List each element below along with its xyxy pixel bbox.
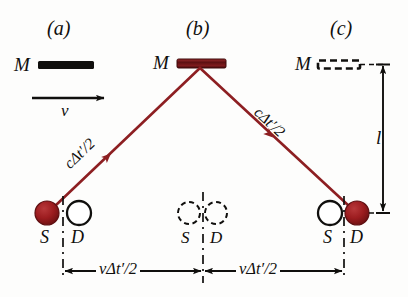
mirror-b-bar — [177, 59, 226, 68]
detector-label-right: D — [350, 228, 363, 246]
panel-tag-c: (c) — [330, 18, 352, 38]
mirror-label-b: M — [153, 53, 169, 72]
mirror-c-bar — [318, 61, 360, 69]
mirror-label-c: M — [295, 54, 311, 73]
dimension-label-right: vΔt′/2 — [236, 261, 280, 278]
length-dimension-label: l — [376, 128, 381, 147]
detector-left-open — [67, 201, 91, 225]
dimension-label-left: vΔt′/2 — [96, 261, 140, 278]
panel-tag-a: (a) — [47, 18, 70, 38]
panel-tag-b: (b) — [186, 18, 209, 38]
velocity-label: v — [61, 102, 69, 119]
mirror-a-bar — [38, 61, 94, 69]
detector-right-filled — [345, 201, 369, 225]
source-label-left: S — [40, 228, 49, 246]
mirror-label-a: M — [14, 55, 30, 74]
source-right-open — [318, 201, 342, 225]
light-ray-up — [55, 68, 200, 206]
detector-middle-dashed — [205, 202, 227, 224]
figure-canvas — [0, 0, 408, 297]
source-middle-dashed — [178, 202, 200, 224]
detector-label-left: D — [71, 228, 84, 246]
source-label-right: S — [323, 228, 332, 246]
source-label-middle: S — [181, 229, 190, 246]
source-left-filled — [35, 201, 59, 225]
light-clock-figure: (a) (b) (c) M M M v cΔt′/2 cΔt′/2 S D S … — [0, 0, 408, 297]
detector-label-middle: D — [210, 229, 222, 246]
